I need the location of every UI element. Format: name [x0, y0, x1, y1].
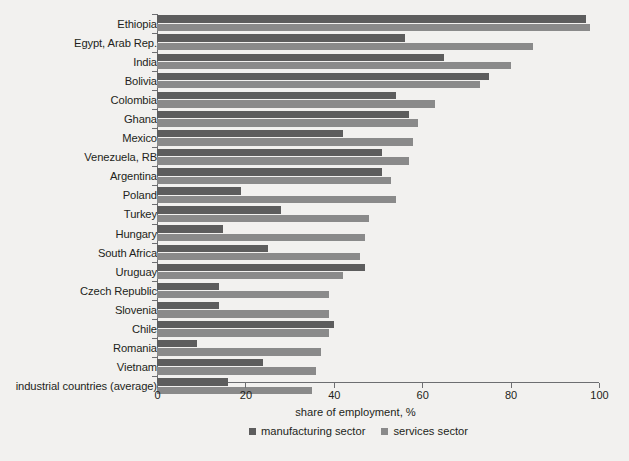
category-label: Colombia	[111, 94, 157, 106]
category-label: Romania	[113, 342, 157, 354]
x-axis-tick-label: 60	[417, 389, 429, 401]
bar-services	[157, 253, 360, 260]
bar-services	[157, 387, 312, 394]
bar-manufacturing	[157, 206, 281, 213]
bar-row: Slovenia	[0, 300, 629, 319]
bar-group	[157, 225, 629, 242]
category-label: Ghana	[124, 113, 157, 125]
bar-services	[157, 272, 343, 279]
bar-row: Ghana	[0, 109, 629, 128]
x-axis-tick	[245, 383, 246, 388]
bar-manufacturing	[157, 168, 382, 175]
x-axis-tick-label: 100	[590, 389, 608, 401]
bar-row: Bolivia	[0, 71, 629, 90]
legend-label: manufacturing sector	[261, 425, 365, 437]
plot-area: EthiopiaEgypt, Arab Rep.IndiaBoliviaColo…	[0, 0, 629, 461]
bar-group	[157, 54, 629, 71]
bar-manufacturing	[157, 283, 219, 290]
bar-group	[157, 149, 629, 166]
bar-services	[157, 310, 329, 317]
x-axis-title: share of employment, %	[0, 406, 629, 418]
bar-row: India	[0, 52, 629, 71]
bar-row: Chile	[0, 320, 629, 339]
y-axis-tick	[152, 166, 157, 167]
bar-services	[157, 24, 590, 31]
category-label: South Africa	[98, 247, 157, 259]
bar-row: Venezuela, RB	[0, 148, 629, 167]
category-label: Hungary	[115, 228, 157, 240]
bar-manufacturing	[157, 321, 334, 328]
bar-manufacturing	[157, 187, 241, 194]
bar-group	[157, 359, 629, 376]
bar-services	[157, 119, 418, 126]
bar-services	[157, 348, 321, 355]
bar-manufacturing	[157, 378, 228, 385]
bar-manufacturing	[157, 54, 444, 61]
bar-manufacturing	[157, 302, 219, 309]
x-axis-tick	[422, 383, 423, 388]
bar-chart: EthiopiaEgypt, Arab Rep.IndiaBoliviaColo…	[0, 0, 629, 461]
bar-group	[157, 187, 629, 204]
y-axis-tick	[152, 90, 157, 91]
bar-services	[157, 234, 365, 241]
y-axis-tick	[152, 243, 157, 244]
legend-swatch-icon	[249, 428, 256, 435]
bar-manufacturing	[157, 130, 343, 137]
bar-services	[157, 43, 533, 50]
category-label: industrial countries (average)	[16, 380, 157, 392]
y-axis-tick	[152, 319, 157, 320]
bar-services	[157, 215, 369, 222]
bar-manufacturing	[157, 15, 586, 22]
bar-services	[157, 81, 480, 88]
x-axis-tick	[511, 383, 512, 388]
x-axis-tick	[599, 383, 600, 388]
bar-row: Colombia	[0, 90, 629, 109]
y-axis-tick	[152, 204, 157, 205]
bar-row: industrial countries (average)	[0, 377, 629, 396]
bar-manufacturing	[157, 149, 382, 156]
bar-group	[157, 245, 629, 262]
y-axis-tick	[152, 128, 157, 129]
legend-item[interactable]: services sector	[381, 425, 468, 437]
bar-group	[157, 340, 629, 357]
y-axis-tick	[152, 357, 157, 358]
category-label: Uruguay	[115, 266, 157, 278]
bar-services	[157, 157, 409, 164]
x-axis-tick-label: 80	[505, 389, 517, 401]
category-label: Egypt, Arab Rep.	[74, 37, 157, 49]
bar-services	[157, 62, 511, 69]
legend-item[interactable]: manufacturing sector	[249, 425, 365, 437]
bar-manufacturing	[157, 92, 396, 99]
bar-group	[157, 92, 629, 109]
bar-group	[157, 130, 629, 147]
category-label: Mexico	[122, 132, 157, 144]
bar-services	[157, 138, 413, 145]
bar-row: Romania	[0, 339, 629, 358]
bar-group	[157, 321, 629, 338]
y-axis-tick	[152, 262, 157, 263]
bar-manufacturing	[157, 34, 405, 41]
category-label: Czech Republic	[80, 285, 157, 297]
category-label: Turkey	[124, 208, 157, 220]
bar-row: Czech Republic	[0, 281, 629, 300]
category-label: Ethiopia	[117, 18, 157, 30]
category-label: Venezuela, RB	[84, 151, 157, 163]
bar-group	[157, 15, 629, 32]
y-axis-tick	[152, 185, 157, 186]
category-label: India	[133, 56, 157, 68]
bar-group	[157, 168, 629, 185]
bar-row: Egypt, Arab Rep.	[0, 33, 629, 52]
y-axis-tick	[152, 71, 157, 72]
bar-manufacturing	[157, 340, 197, 347]
y-axis-tick	[152, 14, 157, 15]
y-axis-tick	[152, 338, 157, 339]
y-axis-tick	[152, 33, 157, 34]
category-label: Chile	[132, 323, 157, 335]
x-axis-tick	[157, 383, 158, 388]
category-label: Slovenia	[115, 304, 157, 316]
y-axis-tick	[152, 281, 157, 282]
bar-row: Argentina	[0, 167, 629, 186]
y-axis-tick	[152, 376, 157, 377]
bar-services	[157, 177, 391, 184]
bar-services	[157, 329, 329, 336]
